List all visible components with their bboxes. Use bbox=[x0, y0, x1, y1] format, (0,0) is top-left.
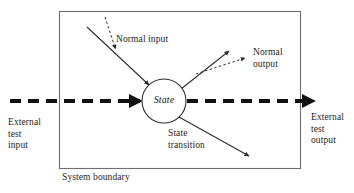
normal-output-dashed-arrow bbox=[196, 58, 245, 74]
system-boundary-label: System boundary bbox=[62, 172, 130, 184]
external-test-output-label: External test output bbox=[311, 112, 344, 147]
normal-output-arrow bbox=[181, 51, 229, 89]
normal-output-label: Normal output bbox=[253, 47, 283, 70]
diagram-canvas: State Normal input Normal output State t… bbox=[0, 0, 354, 193]
state-transition-label: State transition bbox=[168, 128, 205, 151]
state-node-label: State bbox=[142, 94, 186, 106]
normal-input-label: Normal input bbox=[116, 34, 168, 46]
normal-input-dashed-arrow bbox=[105, 17, 116, 49]
external-test-input-label: External test input bbox=[8, 117, 41, 152]
